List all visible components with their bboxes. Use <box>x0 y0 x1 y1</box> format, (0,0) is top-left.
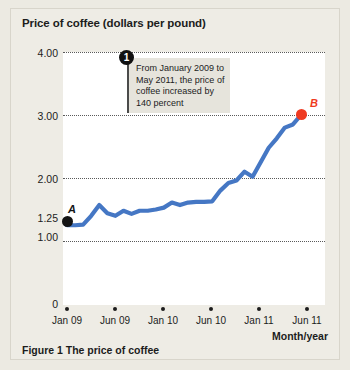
xtick-dot-jun-10 <box>209 307 213 311</box>
xtick-dot-jun-11 <box>305 307 309 311</box>
annotation-badge-icon: 1 <box>119 50 134 65</box>
figure-caption: Figure 1 The price of coffee <box>22 344 159 356</box>
ytick-label-100: 1.00 <box>18 231 58 243</box>
page-title: Price of coffee (dollars per pound) <box>22 17 206 29</box>
ytick-label-0: 0 <box>18 298 58 310</box>
ytick-label-300: 3.00 <box>18 110 58 122</box>
xtick-dot-jun-09 <box>113 307 117 311</box>
data-point-b-label: B <box>310 97 318 109</box>
data-point-b-marker <box>296 109 307 120</box>
figure-container: Price of coffee (dollars per pound) 4.00… <box>0 0 350 370</box>
ytick-label-400: 4.00 <box>18 47 58 59</box>
xtick-dot-jan-11 <box>257 307 261 311</box>
xtick-dot-jan-09 <box>65 307 69 311</box>
ytick-label-200: 2.00 <box>18 173 58 185</box>
ytick-label-125: 1.25 <box>18 212 58 224</box>
annotation-callout: From January 2009 to May 2011, the price… <box>127 58 230 113</box>
data-point-a-label: A <box>68 203 76 215</box>
x-axis-title: Month/year <box>272 330 328 342</box>
data-point-a-marker <box>62 216 73 227</box>
xtick-label-jun-11: Jun 11 <box>279 315 335 326</box>
xtick-dot-jan-10 <box>161 307 165 311</box>
